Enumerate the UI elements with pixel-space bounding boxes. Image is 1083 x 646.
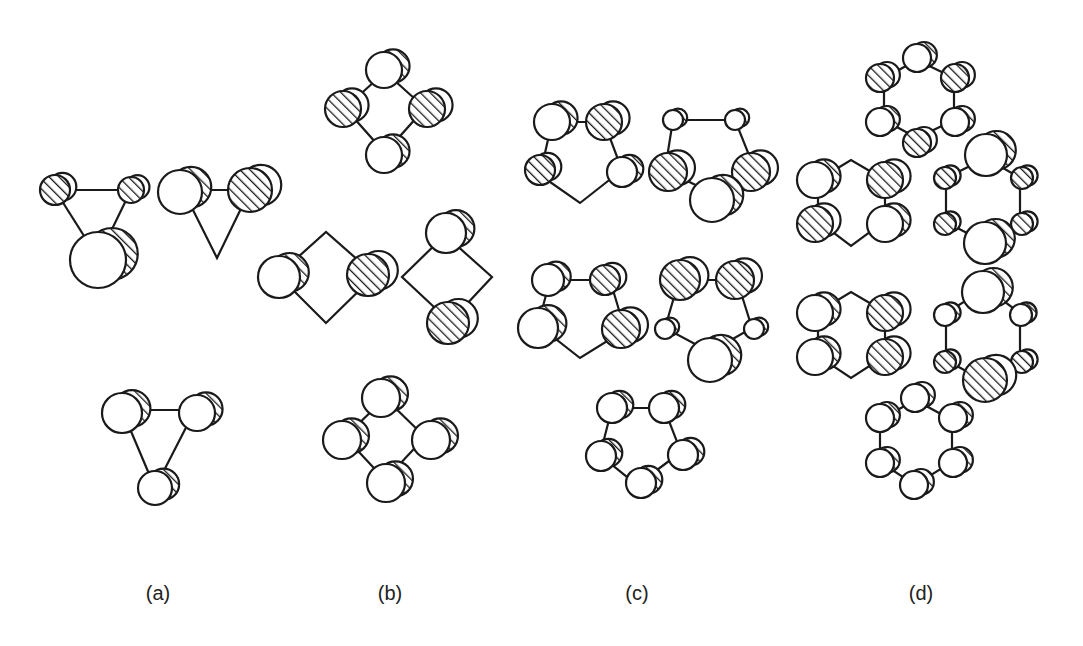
atom-plain [725, 109, 749, 130]
atom-front-disk [118, 177, 144, 203]
atom-hatched [867, 159, 911, 198]
atom-front-disk [941, 64, 969, 92]
molecule [258, 232, 398, 323]
atom-front-disk [964, 222, 1006, 264]
atom-front-disk [900, 471, 928, 499]
atom-plain [867, 203, 911, 242]
atom-hatched [867, 292, 911, 331]
atom-plain [179, 392, 223, 431]
atom-plain [366, 134, 410, 173]
molecule [40, 173, 149, 288]
atom-plain [534, 101, 578, 140]
atom-hatched [427, 299, 478, 344]
atom-plain [939, 402, 973, 432]
atom-front-disk [866, 404, 894, 432]
atom-plain [688, 335, 741, 382]
molecule [102, 390, 223, 505]
atom-front-disk [626, 468, 656, 498]
atom-front-disk [228, 168, 272, 212]
atom-hatched [228, 165, 281, 212]
atom-plain [900, 469, 934, 499]
atom-hatched [1011, 211, 1038, 235]
atom-front-disk [179, 395, 215, 431]
group-c [518, 101, 778, 498]
atom-front-disk [1010, 304, 1032, 326]
molecule [934, 268, 1038, 402]
molecule-groups [40, 42, 1038, 505]
atom-front-disk [939, 404, 967, 432]
atom-plain [258, 253, 309, 298]
molecule [586, 391, 704, 498]
atom-plain [102, 390, 150, 433]
atom-front-disk [532, 264, 564, 296]
atom-plain [412, 418, 458, 459]
atom-front-disk [607, 157, 637, 187]
atom-front-disk [934, 167, 956, 189]
atom-front-disk [941, 108, 969, 136]
atom-plain [158, 167, 211, 214]
atom-plain [367, 461, 413, 502]
atom-front-disk [939, 449, 967, 477]
atom-plain [607, 155, 643, 187]
atom-front-disk [362, 379, 400, 417]
panel-label-c: (c) [625, 582, 648, 605]
atom-front-disk [744, 319, 764, 339]
atom-plain [939, 447, 973, 477]
panel-label-d: (d) [909, 582, 933, 605]
atom-hatched [934, 211, 961, 235]
atom-hatched [590, 263, 626, 295]
atom-plain [362, 376, 408, 417]
atom-hatched [660, 257, 708, 300]
atom-plain [797, 159, 841, 198]
atom-front-disk [426, 213, 466, 253]
atom-front-disk [158, 170, 202, 214]
atom-hatched [586, 101, 630, 140]
atom-plain [586, 439, 622, 471]
atom-front-disk [325, 91, 361, 127]
atom-plain [744, 318, 768, 339]
atom-front-disk [412, 421, 450, 459]
atom-plain [366, 49, 410, 88]
atom-front-disk [797, 339, 833, 375]
atom-plain [138, 469, 179, 505]
molecule [325, 49, 453, 173]
atom-front-disk [102, 393, 142, 433]
atom-front-disk [962, 271, 1004, 313]
atom-hatched [1011, 165, 1038, 189]
atom-hatched [649, 150, 695, 191]
atom-plain [965, 131, 1016, 176]
atom-front-disk [347, 254, 389, 296]
atom-plain [866, 402, 900, 432]
atom-front-disk [590, 265, 620, 295]
atom-front-disk [716, 261, 754, 299]
atom-front-disk [660, 260, 700, 300]
atom-hatched [934, 349, 961, 373]
atom-hatched [325, 88, 369, 127]
atom-front-disk [366, 137, 402, 173]
atom-hatched [602, 307, 648, 348]
atom-hatched [867, 336, 911, 375]
group-a [40, 165, 281, 505]
atom-front-disk [725, 110, 745, 130]
atom-plain [962, 268, 1013, 313]
molecule [525, 101, 643, 203]
atom-front-disk [366, 52, 402, 88]
atom-front-disk [1011, 167, 1033, 189]
atom-front-disk [688, 338, 732, 382]
atom-front-disk [427, 302, 469, 344]
atom-front-disk [963, 358, 1007, 402]
molecule [866, 382, 973, 499]
atom-hatched [525, 153, 561, 185]
atom-hatched [409, 88, 453, 127]
atom-front-disk [690, 178, 734, 222]
atom-hatched [797, 203, 841, 242]
atom-plain [649, 391, 685, 423]
group-b [258, 49, 492, 502]
panel-label-a: (a) [146, 582, 170, 605]
atom-front-disk [602, 310, 640, 348]
molecule [797, 292, 911, 378]
atom-front-disk [668, 440, 698, 470]
atom-front-disk [655, 319, 675, 339]
atom-front-disk [866, 64, 894, 92]
atom-front-disk [797, 206, 833, 242]
